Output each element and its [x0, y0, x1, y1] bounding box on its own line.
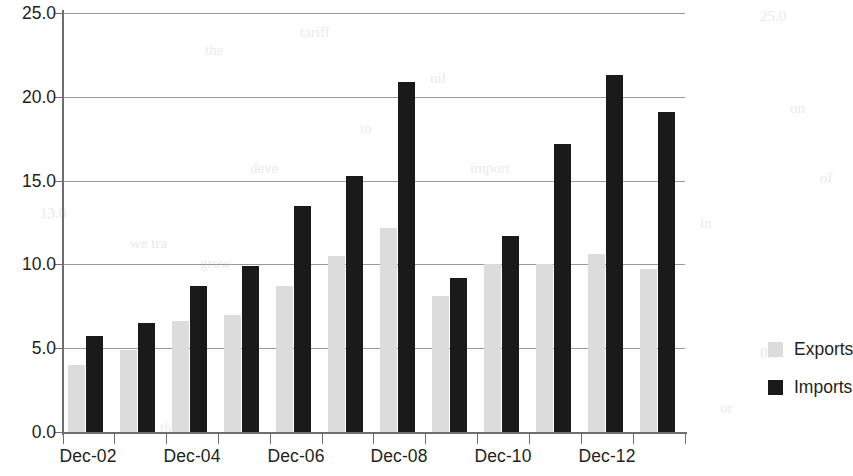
y-axis-tick-label: 25.0 [0, 3, 56, 23]
bar-exports-dec-07 [328, 256, 345, 432]
x-tick-mark [114, 432, 115, 444]
bar-exports-dec-05 [224, 315, 241, 432]
bar-exports-dec-12 [588, 254, 605, 432]
x-axis-tick-label: Dec-12 [578, 446, 635, 467]
x-tick-mark [425, 432, 426, 444]
legend-label: Exports [794, 336, 853, 362]
x-tick-mark [322, 432, 323, 444]
legend-item-exports: Exports [768, 336, 853, 374]
x-tick-mark [270, 432, 271, 444]
legend-label: Imports [794, 374, 852, 400]
bar-group [276, 13, 311, 432]
x-tick-mark [581, 432, 582, 444]
bar-imports-dec-13 [658, 112, 675, 432]
bleed-text: 25.0 [760, 8, 786, 25]
bar-exports-dec-06 [276, 286, 293, 432]
bar-exports-dec-09 [432, 296, 449, 432]
bar-group [328, 13, 363, 432]
bar-imports-dec-05 [242, 266, 259, 432]
bar-group [120, 13, 155, 432]
bar-group [224, 13, 259, 432]
bar-imports-dec-10 [502, 236, 519, 432]
bleed-text: of [820, 170, 833, 187]
chart-legend: ExportsImports [768, 336, 853, 412]
x-axis-tick-label: Dec-10 [474, 446, 531, 467]
y-axis-tick-label: 5.0 [0, 338, 56, 358]
bleed-text: on [790, 100, 805, 117]
x-tick-mark [633, 432, 634, 444]
bar-imports-dec-07 [346, 176, 363, 432]
bar-group [640, 13, 675, 432]
bar-group [172, 13, 207, 432]
bleed-text: in [700, 215, 712, 232]
x-tick-mark [477, 432, 478, 444]
x-axis-tick-label: Dec-08 [370, 446, 427, 467]
bar-imports-dec-12 [606, 75, 623, 432]
x-axis-tick-label: Dec-06 [267, 446, 324, 467]
bars-layer [62, 13, 685, 432]
x-tick-mark [218, 432, 219, 444]
x-axis-tick-label: Dec-04 [163, 446, 220, 467]
x-tick-mark [685, 432, 686, 444]
bar-group [588, 13, 623, 432]
bar-group [68, 13, 103, 432]
bar-group [484, 13, 519, 432]
bar-exports-dec-11 [536, 264, 553, 432]
x-tick-mark [166, 432, 167, 444]
bar-exports-dec-08 [380, 228, 397, 432]
y-axis-tick-label: 20.0 [0, 87, 56, 107]
x-tick-mark [373, 432, 374, 444]
bar-imports-dec-03 [138, 323, 155, 432]
bar-group [536, 13, 571, 432]
bar-chart: tariff25.0theniltoondeveimport13.0we tra… [0, 0, 853, 476]
bleed-text: or [720, 400, 733, 417]
legend-item-imports: Imports [768, 374, 853, 412]
bar-group [432, 13, 467, 432]
bar-imports-dec-04 [190, 286, 207, 432]
plot-area [62, 13, 685, 432]
bar-exports-dec-13 [640, 269, 657, 432]
bar-group [380, 13, 415, 432]
bar-imports-dec-08 [398, 82, 415, 432]
x-axis-tick-label: Dec-02 [59, 446, 116, 467]
bar-exports-dec-10 [484, 264, 501, 432]
y-axis-tick-label: 10.0 [0, 254, 56, 274]
x-tick-mark-origin [63, 432, 64, 444]
x-axis-line [62, 432, 687, 434]
bar-imports-dec-11 [554, 144, 571, 432]
bar-exports-dec-03 [120, 350, 137, 432]
bar-exports-dec-04 [172, 321, 189, 432]
y-axis-tick-label: 15.0 [0, 171, 56, 191]
y-axis-tick-label: 0.0 [0, 422, 56, 442]
bar-imports-dec-02 [86, 336, 103, 432]
bar-imports-dec-09 [450, 278, 467, 432]
x-tick-mark [529, 432, 530, 444]
bar-exports-dec-02 [68, 365, 85, 432]
legend-swatch-imports [768, 380, 783, 395]
bar-imports-dec-06 [294, 206, 311, 432]
legend-swatch-exports [768, 342, 783, 357]
